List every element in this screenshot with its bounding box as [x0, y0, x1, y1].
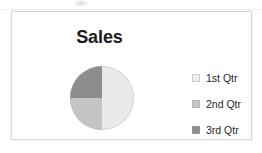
pie-slices-svg	[69, 65, 135, 131]
legend-item[interactable]: 1st Qtr	[192, 65, 262, 91]
scan-artifact	[74, 0, 88, 7]
legend-item-label: 3rd Qtr	[206, 125, 239, 136]
pie-slice-1st-qtr	[102, 66, 134, 130]
legend-swatch-icon	[192, 100, 200, 108]
legend-item-label: 2nd Qtr	[206, 99, 241, 110]
chart-title: Sales	[12, 28, 187, 46]
chart-frame[interactable]: Sales 1st Qtr	[11, 11, 252, 140]
legend-swatch-icon	[192, 74, 200, 82]
legend-item-label: 1st Qtr	[206, 73, 238, 84]
legend-swatch-icon	[192, 126, 200, 134]
page-canvas: Sales 1st Qtr	[0, 0, 262, 153]
scan-edge-line	[0, 9, 262, 10]
legend-item[interactable]: 3rd Qtr	[192, 117, 262, 143]
legend-item[interactable]: 2nd Qtr	[192, 91, 262, 117]
pie-graphic	[69, 65, 135, 131]
pie-chart[interactable]	[69, 65, 135, 131]
chart-legend: 1st Qtr 2nd Qtr 3rd Qtr	[192, 65, 262, 143]
